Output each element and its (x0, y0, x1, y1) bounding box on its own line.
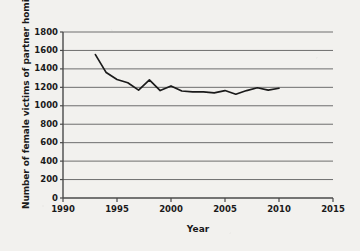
chart-container: Number of female victims of partner homi… (0, 0, 360, 251)
plot-area (0, 0, 360, 251)
gridlines (63, 32, 333, 180)
data-series-line (95, 55, 279, 95)
axis-ticks (60, 32, 333, 202)
